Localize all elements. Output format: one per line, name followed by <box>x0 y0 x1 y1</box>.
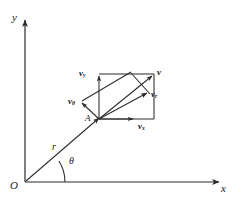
theta-angle-label: θ <box>69 156 74 166</box>
vector-v-y-label: vy <box>79 69 85 79</box>
diagram-canvas <box>0 0 244 199</box>
vector-v-y-sub: y <box>83 72 85 78</box>
origin-label: O <box>10 180 18 191</box>
vector-v-r-sub: r <box>155 93 157 99</box>
vector-v-label: v <box>157 68 161 77</box>
vector-v-theta-label: vθ <box>68 97 75 107</box>
vector-v-r-label: vr <box>151 90 157 100</box>
vector-decomposition-figure: y x O A r θ v vx vy vr vθ <box>0 0 244 199</box>
vector-v-theta-sub: θ <box>72 100 75 106</box>
vector-v <box>99 76 152 119</box>
radial-direction-line <box>99 93 147 119</box>
vector-v-base: v <box>157 67 161 77</box>
theta-arc <box>59 161 65 182</box>
vector-v-x-label: vx <box>138 122 145 132</box>
y-axis-label: y <box>12 12 17 23</box>
vector-v-x-sub: x <box>142 125 145 131</box>
point-a-label: A <box>85 114 91 123</box>
position-vector-label: r <box>52 142 56 152</box>
x-axis-label: x <box>221 183 226 194</box>
position-vector-r <box>26 118 99 181</box>
polar-parallelogram-side-1 <box>82 72 131 101</box>
